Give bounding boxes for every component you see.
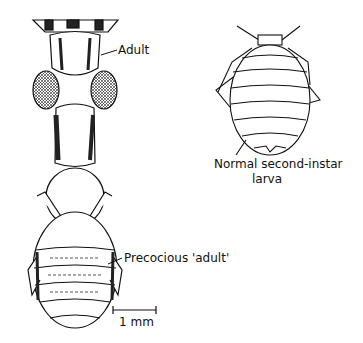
scale-bar <box>113 306 156 314</box>
label-normal-larva-line1: Normal second-instar <box>214 158 343 170</box>
scale-bar-label: 1 mm <box>119 316 154 328</box>
precocious-adult-insect <box>28 192 122 328</box>
label-normal-larva-line2: larva <box>252 173 282 185</box>
label-precocious-adult: Precocious 'adult' <box>124 252 229 264</box>
normal-larva <box>216 26 320 155</box>
figure-drawing <box>0 0 363 343</box>
label-adult: Adult <box>118 44 149 56</box>
